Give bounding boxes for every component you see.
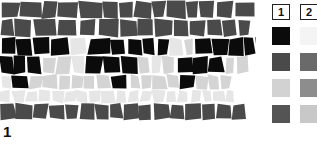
- mosaic-tile: [166, 0, 185, 19]
- mosaic-tile: [170, 105, 185, 120]
- mosaic-tile: [119, 2, 133, 18]
- mosaic-tile: [195, 76, 208, 90]
- mosaic-tile: [152, 75, 168, 89]
- mosaic-tile: [207, 19, 222, 35]
- mosaic-tile: [121, 56, 138, 74]
- mosaic-tile: [38, 90, 50, 102]
- mosaic-tile: [41, 1, 57, 19]
- mosaic-tile: [15, 103, 32, 119]
- mosaic-tile: [238, 20, 250, 36]
- mosaic-tile: [0, 56, 15, 75]
- mosaic-tile: [154, 19, 172, 37]
- mosaic-row-label: 1: [3, 122, 11, 142]
- mosaic-tile: [190, 20, 206, 36]
- mosaic-tile: [85, 56, 103, 74]
- mosaic-tile: [65, 104, 79, 119]
- mosaic-tile: [29, 76, 44, 90]
- legend-swatch-2-2: [300, 53, 317, 71]
- legend-column-header-2: 2: [300, 4, 317, 20]
- mosaic-tile: [94, 104, 108, 120]
- mosaic-tile: [78, 1, 103, 19]
- mosaic-tile: [222, 19, 237, 36]
- mosaic-tile: [244, 37, 256, 56]
- mosaic-tile: [177, 90, 188, 102]
- legend-column-header-1: 1: [272, 4, 290, 20]
- mosaic-tile: [202, 90, 212, 102]
- mosaic-tile: [151, 1, 166, 18]
- mosaic-tile: [99, 19, 119, 38]
- mosaic-tile: [225, 90, 234, 102]
- mosaic-tile: [180, 75, 196, 89]
- mosaic-tile: [1, 19, 15, 36]
- mosaic-tile: [235, 3, 254, 17]
- legend-column-2: 2: [300, 4, 317, 131]
- mosaic-tile: [116, 90, 126, 103]
- legend-swatch-2-1: [300, 27, 317, 45]
- mosaic-tile: [128, 39, 142, 55]
- mosaic-tile: [103, 56, 120, 73]
- mosaic-tile: [226, 58, 234, 74]
- mosaic-tile: [213, 91, 226, 102]
- mosaic-tile: [2, 37, 16, 54]
- mosaic-tile: [96, 74, 111, 88]
- legend-swatch-1-3: [272, 79, 290, 97]
- mosaic-tile: [137, 19, 153, 36]
- mosaic-tile: [25, 91, 37, 101]
- mosaic-tile: [11, 76, 28, 89]
- mosaic-tile: [11, 90, 25, 103]
- mosaic-tile: [228, 37, 244, 56]
- mosaic-tile: [71, 56, 84, 74]
- mosaic-tile: [55, 56, 71, 74]
- mosaic-tile: [141, 75, 152, 89]
- mosaic-tile: [184, 39, 193, 56]
- mosaic-tile: [128, 90, 139, 102]
- mosaic-tile: [208, 56, 225, 72]
- mosaic-tile: [49, 105, 65, 120]
- mosaic-tile: [84, 76, 95, 89]
- mosaic-tile: [199, 1, 214, 18]
- mosaic-tile: [169, 37, 183, 55]
- mosaic-tile: [216, 104, 232, 119]
- mosaic-tile: [59, 75, 70, 89]
- mosaic-tile: [124, 103, 140, 120]
- mosaic-tile: [151, 90, 165, 103]
- mosaic-tile: [2, 3, 21, 18]
- mosaic-tile: [110, 103, 123, 119]
- mosaic-tile: [52, 91, 64, 104]
- mosaic-tile: [42, 74, 57, 89]
- legend-swatch-2-4: [300, 105, 317, 123]
- mosaic-tile: [202, 104, 215, 121]
- mosaic-panel: [0, 0, 256, 122]
- mosaic-tile: [64, 91, 77, 102]
- mosaic-tile: [51, 37, 70, 55]
- legend: 1 2: [268, 4, 317, 142]
- mosaic-visualization: 1 1 2: [0, 0, 317, 145]
- mosaic-tile: [166, 91, 176, 102]
- mosaic-tile: [27, 57, 41, 75]
- mosaic-tile: [154, 103, 171, 120]
- mosaic-tile: [131, 74, 141, 88]
- mosaic-tile: [237, 56, 249, 74]
- mosaic-tile: [138, 104, 151, 120]
- mosaic-tile: [158, 39, 170, 56]
- mosaic-tile: [87, 38, 110, 55]
- mosaic-tile: [111, 75, 127, 89]
- mosaic-tile: [220, 75, 231, 89]
- mosaic-tile: [33, 19, 56, 36]
- mosaic-tile: [207, 74, 219, 89]
- mosaic-tile: [232, 104, 246, 120]
- mosaic-tile: [101, 91, 116, 103]
- mosaic-tile: [193, 56, 208, 74]
- mosaic-tile: [195, 38, 213, 54]
- mosaic-tile: [80, 19, 95, 35]
- mosaic-tile: [80, 103, 95, 119]
- mosaic-tile: [211, 39, 229, 55]
- mosaic-tile: [15, 39, 32, 56]
- mosaic-tile: [89, 90, 101, 102]
- mosaic-tile: [110, 40, 125, 55]
- mosaic-tile: [102, 1, 118, 18]
- legend-column-1: 1: [272, 4, 294, 131]
- mosaic-tile: [57, 2, 78, 18]
- mosaic-tile: [19, 2, 41, 18]
- mosaic-tile: [138, 56, 150, 73]
